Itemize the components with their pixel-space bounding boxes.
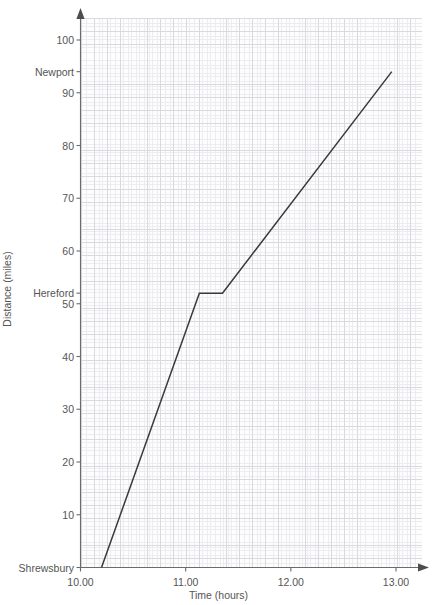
y-tick-label-hereford: Hereford xyxy=(33,288,74,299)
y-tick-label-70: 70 xyxy=(62,193,74,204)
y-axis-ticks xyxy=(77,40,81,568)
y-tick-label-80: 80 xyxy=(62,140,74,151)
y-tick-label-50: 50 xyxy=(62,299,74,310)
distance-time-chart: Shrewsbury1020304050Hereford60708090Newp… xyxy=(0,0,437,605)
x-axis-arrowhead xyxy=(418,563,429,571)
y-tick-label-20: 20 xyxy=(62,457,74,468)
y-tick-label-shrewsbury: Shrewsbury xyxy=(19,562,74,573)
x-tick-label-10-00: 10.00 xyxy=(67,577,93,588)
journey-line xyxy=(102,72,392,568)
y-tick-label-90: 90 xyxy=(62,88,74,99)
x-tick-label-13-00: 13.00 xyxy=(383,577,409,588)
y-tick-label-40: 40 xyxy=(62,351,74,362)
y-axis xyxy=(76,8,84,568)
x-axis-title: Time (hours) xyxy=(0,589,437,601)
x-axis-ticks xyxy=(81,568,397,572)
x-axis xyxy=(80,563,429,571)
y-tick-label-30: 30 xyxy=(62,404,74,415)
y-tick-label-newport: Newport xyxy=(35,66,74,77)
y-tick-label-100: 100 xyxy=(56,35,74,46)
y-axis-title: Distance (miles) xyxy=(1,229,13,349)
x-tick-label-12-00: 12.00 xyxy=(278,577,304,588)
y-tick-label-10: 10 xyxy=(62,510,74,521)
y-tick-label-60: 60 xyxy=(62,246,74,257)
y-axis-arrowhead xyxy=(76,8,84,19)
x-tick-label-11-00: 11.00 xyxy=(173,577,199,588)
